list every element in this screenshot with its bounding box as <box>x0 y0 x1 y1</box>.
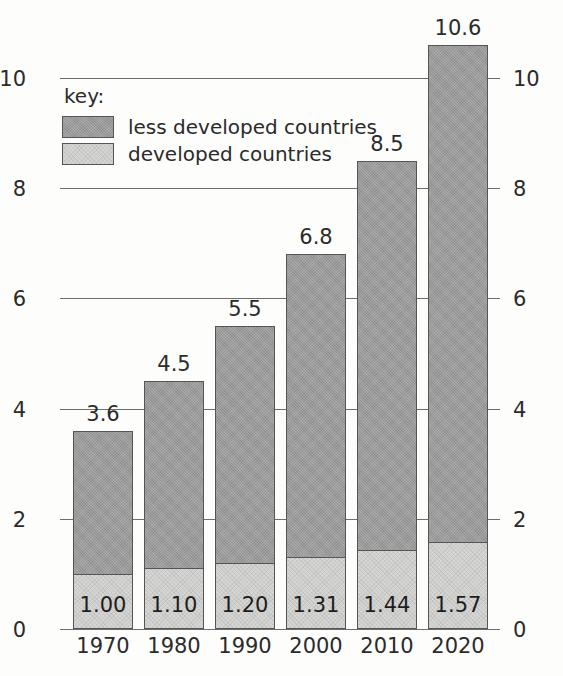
y-tick-right-8: 8 <box>513 179 526 200</box>
y-tick-right-2: 2 <box>513 510 526 531</box>
bar-value-label-developed-1980: 1.10 <box>138 595 210 616</box>
bar-total-label-2000: 6.8 <box>272 227 360 248</box>
x-axis-label-1970: 1970 <box>63 636 143 657</box>
bar-value-label-developed-2000: 1.31 <box>280 595 352 616</box>
bar-segment-less-developed-1990[interactable] <box>215 326 275 564</box>
bar-segment-less-developed-1980[interactable] <box>144 381 204 570</box>
bar-total-label-1970: 3.6 <box>59 404 147 425</box>
bar-segment-developed-2010[interactable] <box>357 550 417 629</box>
bar-segment-less-developed-2010[interactable] <box>357 161 417 551</box>
y-tick-left-4: 4 <box>13 400 26 421</box>
legend-item-less-developed[interactable]: less developed countries <box>62 116 377 138</box>
y-tick-right-6: 6 <box>513 289 526 310</box>
y-tick-right-0: 0 <box>513 620 526 641</box>
x-axis-label-1990: 1990 <box>205 636 285 657</box>
y-tick-left-8: 8 <box>13 179 26 200</box>
legend-item-developed[interactable]: developed countries <box>62 143 377 165</box>
legend-label-developed: developed countries <box>128 144 332 164</box>
bar-total-label-1990: 5.5 <box>201 299 289 320</box>
stacked-bar-chart: 10 8 6 4 2 0 10 8 6 4 2 0 key: less deve… <box>0 0 563 676</box>
bar-segment-less-developed-1970[interactable] <box>73 431 133 576</box>
bar-1980[interactable] <box>144 381 204 629</box>
y-tick-left-10: 10 <box>0 69 26 90</box>
bar-value-label-developed-1970: 1.00 <box>67 595 139 616</box>
bar-value-label-developed-2010: 1.44 <box>351 595 423 616</box>
bar-segment-less-developed-2020[interactable] <box>428 45 488 544</box>
x-axis-label-2000: 2000 <box>276 636 356 657</box>
bar-2010[interactable] <box>357 161 417 629</box>
x-axis-baseline <box>60 629 500 630</box>
y-tick-right-4: 4 <box>513 400 526 421</box>
x-axis-label-1980: 1980 <box>134 636 214 657</box>
bar-total-label-2020: 10.6 <box>414 18 502 39</box>
x-axis-label-2020: 2020 <box>418 636 498 657</box>
y-tick-left-6: 6 <box>13 289 26 310</box>
legend-swatch-developed-icon <box>62 143 114 165</box>
x-axis-label-2010: 2010 <box>347 636 427 657</box>
y-tick-left-0: 0 <box>13 620 26 641</box>
legend: key: less developed countries developed … <box>62 86 377 170</box>
bar-2000[interactable] <box>286 254 346 629</box>
legend-label-less-developed: less developed countries <box>128 117 377 137</box>
bar-total-label-1980: 4.5 <box>130 354 218 375</box>
bar-value-label-developed-1990: 1.20 <box>209 595 281 616</box>
legend-title: key: <box>64 86 377 106</box>
bar-value-label-developed-2020: 1.57 <box>422 595 494 616</box>
legend-swatch-less-developed-icon <box>62 116 114 138</box>
bar-2020[interactable] <box>428 45 488 629</box>
y-tick-right-10: 10 <box>513 69 540 90</box>
y-tick-left-2: 2 <box>13 510 26 531</box>
bar-segment-less-developed-2000[interactable] <box>286 254 346 558</box>
bar-1990[interactable] <box>215 326 275 629</box>
